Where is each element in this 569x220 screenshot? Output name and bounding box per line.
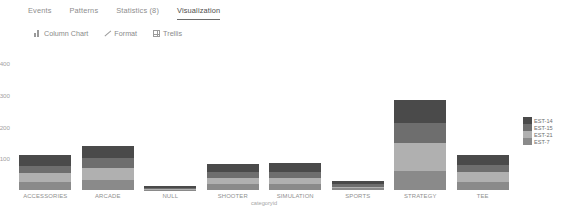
column-chart-label: Column Chart — [44, 29, 88, 38]
legend-item[interactable]: EST-15 — [523, 124, 553, 131]
bar-column[interactable]: SPORTS — [332, 63, 384, 190]
bar-segment[interactable] — [332, 188, 384, 190]
bar-segment[interactable] — [82, 146, 134, 159]
grid-icon — [153, 30, 160, 37]
bar-column[interactable]: SHOOTER — [207, 63, 259, 190]
bar-segment[interactable] — [82, 168, 134, 179]
x-axis-category-label: TEE — [477, 193, 489, 199]
bar-segment[interactable] — [207, 184, 259, 190]
legend-swatch — [523, 138, 532, 145]
tab-events[interactable]: Events — [28, 6, 52, 20]
x-axis-title: categoryid — [14, 200, 514, 206]
tab-patterns[interactable]: Patterns — [70, 6, 99, 20]
y-axis-tick: 100 — [0, 155, 10, 162]
bar-segment[interactable] — [394, 171, 446, 190]
bar-segment[interactable] — [394, 123, 446, 143]
bar-segment[interactable] — [457, 165, 509, 172]
bar-segment[interactable] — [19, 182, 71, 190]
bar-column[interactable]: TEE — [457, 63, 509, 190]
stacked-bar[interactable] — [457, 155, 509, 190]
bar-segment[interactable] — [269, 163, 321, 172]
legend-label: EST-7 — [534, 139, 550, 145]
bar-column[interactable]: ACCESSORIES — [19, 63, 71, 190]
trellis-button[interactable]: Trellis — [153, 29, 182, 38]
format-button[interactable]: Format — [104, 29, 137, 38]
legend-swatch — [523, 117, 532, 124]
tab-bar: Events Patterns Statistics (8) Visualiza… — [0, 0, 569, 20]
x-axis-category-label: SIMULATION — [277, 193, 314, 199]
chart-legend: EST-14EST-15EST-21EST-7 — [523, 117, 553, 145]
x-axis-category-label: SHOOTER — [218, 193, 248, 199]
legend-swatch — [523, 124, 532, 131]
stacked-bar[interactable] — [82, 146, 134, 190]
tab-statistics[interactable]: Statistics (8) — [116, 6, 159, 20]
legend-swatch — [523, 131, 532, 138]
stacked-bar[interactable] — [332, 181, 384, 190]
legend-item[interactable]: EST-7 — [523, 138, 553, 145]
legend-label: EST-14 — [534, 118, 553, 124]
legend-label: EST-15 — [534, 125, 553, 131]
y-axis-tick: 300 — [0, 91, 10, 98]
bar-segment[interactable] — [19, 166, 71, 173]
bar-segment[interactable] — [82, 158, 134, 168]
bar-segment[interactable] — [394, 100, 446, 123]
bar-column[interactable]: STRATEGY — [394, 63, 446, 190]
y-axis-tick: 400 — [0, 60, 10, 67]
x-axis-category-label: SPORTS — [345, 193, 370, 199]
column-chart-button[interactable]: Column Chart — [34, 29, 88, 38]
bar-segment[interactable] — [457, 155, 509, 165]
bar-segment[interactable] — [82, 180, 134, 190]
legend-label: EST-21 — [534, 132, 553, 138]
bar-segment[interactable] — [394, 143, 446, 171]
legend-item[interactable]: EST-21 — [523, 131, 553, 138]
x-axis-category-label: STRATEGY — [404, 193, 437, 199]
x-axis-category-label: ACCESSORIES — [23, 193, 67, 199]
bar-column[interactable]: ARCADE — [82, 63, 134, 190]
chart-toolbar: Column Chart Format Trellis — [0, 20, 569, 38]
bar-segment[interactable] — [19, 155, 71, 166]
bar-segment[interactable] — [207, 164, 259, 172]
trellis-label: Trellis — [163, 29, 182, 38]
format-label: Format — [114, 29, 137, 38]
x-axis-category-label: ARCADE — [95, 193, 120, 199]
stacked-bar[interactable] — [19, 155, 71, 190]
bar-column[interactable]: SIMULATION — [269, 63, 321, 190]
bar-segment[interactable] — [19, 173, 71, 182]
stacked-bar[interactable] — [207, 164, 259, 190]
bar-segment[interactable] — [457, 172, 509, 182]
chart-region: 400300200100 ACCESSORIESARCADENULLSHOOTE… — [0, 52, 569, 220]
bar-segment[interactable] — [457, 182, 509, 190]
bar-segment[interactable] — [269, 184, 321, 190]
pencil-icon — [104, 30, 111, 37]
plot-area: 400300200100 ACCESSORIESARCADENULLSHOOTE… — [14, 63, 514, 190]
bar-series-group: ACCESSORIESARCADENULLSHOOTERSIMULATIONSP… — [14, 63, 514, 190]
y-axis-tick: 200 — [0, 123, 10, 130]
stacked-bar[interactable] — [394, 100, 446, 190]
x-axis-category-label: NULL — [162, 193, 178, 199]
bar-column[interactable]: NULL — [144, 63, 196, 190]
bar-chart-icon — [34, 30, 41, 37]
stacked-bar[interactable] — [269, 163, 321, 190]
stacked-bar[interactable] — [144, 186, 196, 190]
legend-item[interactable]: EST-14 — [523, 117, 553, 124]
tab-visualization[interactable]: Visualization — [177, 6, 220, 20]
